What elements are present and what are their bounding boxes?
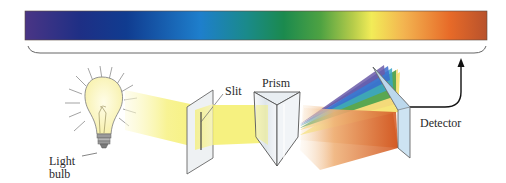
detector-label: Detector (420, 117, 461, 129)
light-bulb-label: Light bulb (49, 155, 75, 181)
prism (254, 92, 300, 166)
prism-label: Prism (262, 77, 290, 89)
light-beam (125, 90, 195, 147)
signal-arrow (410, 58, 465, 107)
bulb-label-leader (82, 153, 97, 156)
spectrometer-diagram (0, 0, 506, 183)
slit-label: Slit (225, 85, 242, 97)
light-bulb-label-line2: bulb (49, 168, 75, 181)
spectrum-bracket (28, 46, 486, 53)
spectrum-bar (25, 11, 487, 40)
light-bulb (82, 77, 123, 156)
